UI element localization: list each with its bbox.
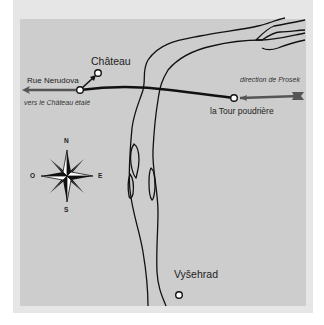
label-rue-nerudova: Rue Nerudova	[27, 76, 79, 85]
map-canvas	[0, 0, 324, 325]
compass-east: E	[98, 172, 102, 179]
chateau-arrow	[82, 75, 96, 88]
compass-west: O	[30, 172, 35, 179]
route-line	[80, 87, 234, 98]
point-chateau	[95, 70, 102, 77]
label-vysehrad: Vyšehrad	[174, 268, 218, 280]
label-west-direction: vers le Château étalé	[24, 99, 90, 106]
label-chateau: Château	[91, 55, 131, 67]
east-arrow	[240, 92, 304, 101]
point-vysehrad	[176, 292, 183, 299]
compass-rose-icon	[41, 150, 93, 202]
point-tour	[231, 95, 238, 102]
compass-south: S	[64, 206, 68, 213]
compass-north: N	[64, 137, 69, 144]
point-rue-nerudova	[77, 87, 84, 94]
label-east-direction: direction de Prosek	[240, 76, 300, 83]
river	[128, 18, 305, 306]
west-arrow	[22, 86, 80, 94]
label-tour-poudriere: la Tour poudrière	[210, 106, 274, 116]
